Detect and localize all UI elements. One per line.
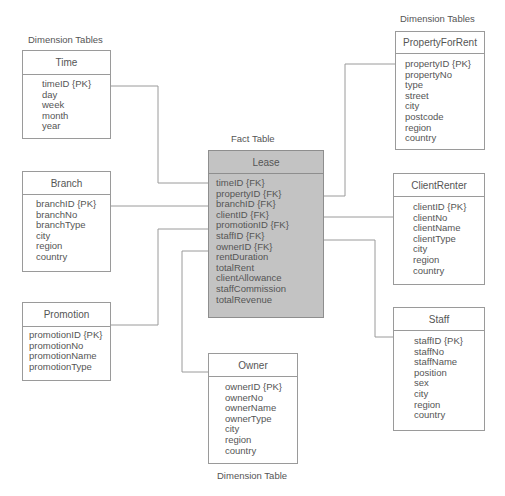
attribute-list: timeID {FK} propertyID {FK} branchID {FK… xyxy=(209,174,323,305)
attribute: timeID {FK} xyxy=(216,178,323,189)
entity-time[interactable]: Time timeID {PK} day week month year xyxy=(22,50,111,139)
link-time-lease xyxy=(110,86,208,183)
attribute: timeID {PK} xyxy=(42,79,110,90)
entity-title: PropertyForRent xyxy=(396,32,484,54)
attribute: propertyID {PK} xyxy=(405,59,484,70)
caption-dimension-table-bottom: Dimension Table xyxy=(217,470,287,481)
attribute-list: timeID {PK} day week month year xyxy=(23,75,110,132)
attribute-list: branchID {PK} branchNo branchType city r… xyxy=(23,195,110,263)
link-property-lease xyxy=(323,64,395,196)
entity-branch[interactable]: Branch branchID {PK} branchNo branchType… xyxy=(22,171,111,272)
entity-title: ClientRenter xyxy=(394,174,484,197)
caption-fact-table: Fact Table xyxy=(231,133,275,144)
link-promotion-lease xyxy=(110,229,208,325)
attribute: city xyxy=(414,389,484,400)
attribute-list: promotionID {PK} promotionNo promotionNa… xyxy=(23,327,110,372)
entity-property-for-rent[interactable]: PropertyForRent propertyID {PK} property… xyxy=(395,31,485,150)
attribute: branchID {PK} xyxy=(36,199,110,210)
attribute: staffID {PK} xyxy=(414,336,484,347)
attribute-list: ownerID {PK} ownerNo ownerName ownerType… xyxy=(209,377,297,456)
attribute-list: clientID {PK} clientNo clientName client… xyxy=(394,197,484,276)
attribute: promotionID {PK} xyxy=(29,330,110,341)
attribute: country xyxy=(36,252,110,263)
attribute-list: staffID {PK} staffNo staffName position … xyxy=(394,331,484,421)
entity-owner[interactable]: Owner ownerID {PK} ownerNo ownerName own… xyxy=(208,353,298,464)
caption-dimension-tables-left: Dimension Tables xyxy=(28,34,103,45)
link-owner-lease xyxy=(182,251,208,372)
entity-title: Staff xyxy=(394,308,484,331)
attribute: country xyxy=(414,410,484,421)
caption-dimension-tables-right: Dimension Tables xyxy=(400,13,475,24)
entity-promotion[interactable]: Promotion promotionID {PK} promotionNo p… xyxy=(22,302,111,381)
attribute: year xyxy=(42,121,110,132)
entity-title: Promotion xyxy=(23,303,110,327)
entity-title: Lease xyxy=(209,151,323,174)
attribute: promotionType xyxy=(29,362,110,373)
attribute: region xyxy=(225,435,297,446)
attribute: postcode xyxy=(405,112,484,123)
attribute: staffCommission xyxy=(216,284,323,295)
attribute: staffID {FK} xyxy=(216,231,323,242)
entity-title: Owner xyxy=(209,354,297,377)
attribute: country xyxy=(405,133,484,144)
attribute: totalRevenue xyxy=(216,295,323,306)
attribute: clientID {PK} xyxy=(413,202,484,213)
entity-lease-fact[interactable]: Lease timeID {FK} propertyID {FK} branch… xyxy=(208,150,324,318)
entity-title: Time xyxy=(23,51,110,75)
attribute-list: propertyID {PK} propertyNo type street c… xyxy=(396,54,484,144)
attribute: country xyxy=(225,446,297,457)
attribute: region xyxy=(413,255,484,266)
entity-client-renter[interactable]: ClientRenter clientID {PK} clientNo clie… xyxy=(393,173,485,285)
attribute: ownerID {PK} xyxy=(225,382,297,393)
entity-staff[interactable]: Staff staffID {PK} staffNo staffName pos… xyxy=(393,307,485,431)
entity-title: Branch xyxy=(23,172,110,195)
link-staff-lease xyxy=(323,240,393,337)
attribute: country xyxy=(413,266,484,277)
